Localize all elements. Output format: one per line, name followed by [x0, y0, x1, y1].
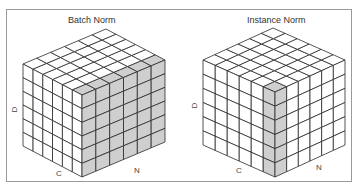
- cube-diagrams: [0, 0, 357, 193]
